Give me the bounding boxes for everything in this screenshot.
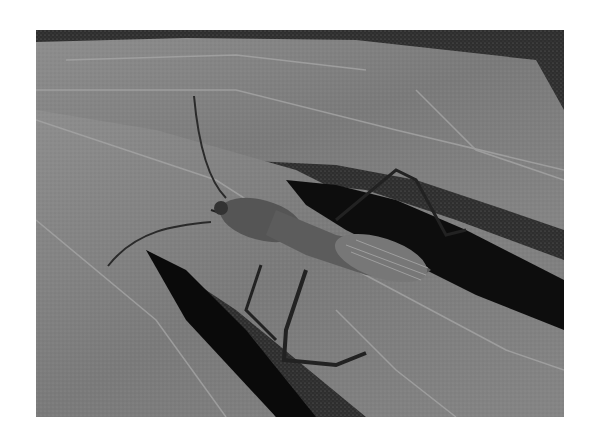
insect-photo [36, 30, 564, 417]
photo-canvas [36, 30, 564, 417]
